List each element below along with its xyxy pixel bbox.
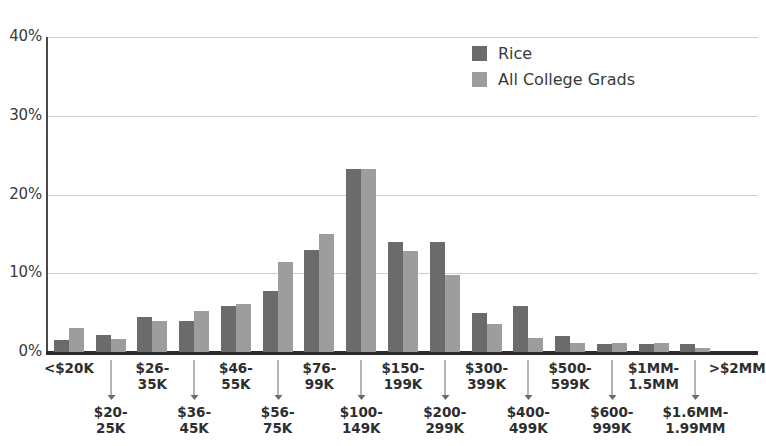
- x-axis-tick-label: $26-35K: [136, 360, 170, 392]
- bar-group: [340, 37, 382, 352]
- bar-group: [257, 37, 299, 352]
- bar: [680, 344, 695, 352]
- chart-legend: RiceAll College Grads: [472, 44, 635, 96]
- bar: [137, 317, 152, 352]
- bar: [194, 311, 209, 352]
- x-axis-category: $400-499K: [507, 358, 549, 446]
- bar: [278, 262, 293, 352]
- bar: [111, 339, 126, 352]
- x-axis-category: >$2MM: [716, 358, 758, 446]
- bar-chart: 40%30%20%10%0% RiceAll College Grads <$2…: [0, 0, 766, 446]
- bar: [96, 335, 111, 352]
- bar: [513, 306, 528, 352]
- x-axis-category: <$20K: [48, 358, 90, 446]
- x-axis-tick-label: $600-999K: [590, 404, 633, 436]
- x-axis-category: $46-55K: [215, 358, 257, 446]
- bar-group: [132, 37, 174, 352]
- x-axis-category: $76-99K: [299, 358, 341, 446]
- x-axis-category: $36-45K: [173, 358, 215, 446]
- x-axis-tick-label: $46-55K: [219, 360, 253, 392]
- bar: [346, 169, 361, 352]
- bar: [695, 348, 710, 352]
- bar: [472, 313, 487, 352]
- bar: [487, 324, 502, 352]
- legend-label: Rice: [498, 44, 532, 63]
- bar: [221, 306, 236, 352]
- x-axis-tick-label: $150-199K: [381, 360, 424, 392]
- x-axis-category: $150-199K: [382, 358, 424, 446]
- x-axis-category: $600-999K: [591, 358, 633, 446]
- down-arrow-icon: [528, 360, 529, 396]
- legend-swatch-icon: [472, 46, 487, 61]
- down-arrow-icon: [611, 360, 612, 396]
- bar: [570, 343, 585, 352]
- x-axis-tick-label: $1MM-1.5MM: [628, 360, 679, 392]
- bar-group: [716, 37, 758, 352]
- legend-item: Rice: [472, 44, 635, 63]
- x-axis-tick-label: $500-599K: [548, 360, 591, 392]
- x-axis-tick-label: $20-25K: [94, 404, 128, 436]
- bar-group: [215, 37, 257, 352]
- x-axis-tick-label: $56-75K: [261, 404, 295, 436]
- y-axis-tick-label: 10%: [0, 263, 42, 281]
- bar: [152, 321, 167, 353]
- bar: [69, 328, 84, 352]
- legend-label: All College Grads: [498, 70, 635, 89]
- x-axis-tick-label: $76-99K: [303, 360, 337, 392]
- x-axis-tick-label: $300-399K: [465, 360, 508, 392]
- x-axis-category: $26-35K: [132, 358, 174, 446]
- bar-group: [299, 37, 341, 352]
- bar-group: [674, 37, 716, 352]
- bar: [612, 343, 627, 352]
- bar: [528, 338, 543, 352]
- bar: [319, 234, 334, 352]
- bar: [639, 344, 654, 352]
- down-arrow-icon: [110, 360, 111, 396]
- x-axis-tick-label: $36-45K: [177, 404, 211, 436]
- x-axis-tick-label: $100-149K: [340, 404, 383, 436]
- legend-item: All College Grads: [472, 70, 635, 89]
- bar: [555, 336, 570, 352]
- bar: [54, 340, 69, 352]
- x-axis-category: $200-299K: [424, 358, 466, 446]
- bar: [403, 251, 418, 352]
- x-axis-category: $300-399K: [466, 358, 508, 446]
- y-axis-tick-labels: 40%30%20%10%0%: [0, 0, 42, 446]
- bar: [304, 250, 319, 352]
- x-axis-tick-label: $200-299K: [423, 404, 466, 436]
- down-arrow-icon: [194, 360, 195, 396]
- bar: [361, 169, 376, 352]
- bar: [654, 343, 669, 352]
- x-axis-category: $500-599K: [549, 358, 591, 446]
- bar-group: [173, 37, 215, 352]
- legend-swatch-icon: [472, 72, 487, 87]
- x-axis-category: $56-75K: [257, 358, 299, 446]
- bar: [430, 242, 445, 352]
- bar: [236, 304, 251, 352]
- y-axis-tick-label: 0%: [0, 342, 42, 360]
- y-axis-tick-label: 20%: [0, 185, 42, 203]
- bar: [388, 242, 403, 352]
- bar: [179, 321, 194, 352]
- bar: [445, 275, 460, 352]
- down-arrow-icon: [695, 360, 696, 396]
- bar-group: [633, 37, 675, 352]
- x-axis-tick-label: $400-499K: [507, 404, 550, 436]
- x-axis-category: $20-25K: [90, 358, 132, 446]
- down-arrow-icon: [444, 360, 445, 396]
- bar: [597, 344, 612, 352]
- bar: [263, 291, 278, 352]
- bars-layer: [48, 37, 758, 352]
- x-axis-category-labels: <$20K$20-25K$26-35K$36-45K$46-55K$56-75K…: [48, 358, 758, 446]
- bar-group: [382, 37, 424, 352]
- down-arrow-icon: [277, 360, 278, 396]
- y-axis-tick-label: 30%: [0, 106, 42, 124]
- y-axis-tick-label: 40%: [0, 27, 42, 45]
- x-axis-category: $100-149K: [340, 358, 382, 446]
- bar-group: [90, 37, 132, 352]
- bar-group: [48, 37, 90, 352]
- x-axis-tick-label: <$20K: [44, 360, 94, 376]
- down-arrow-icon: [361, 360, 362, 396]
- x-axis-tick-label: >$2MM: [709, 360, 766, 376]
- bar-group: [424, 37, 466, 352]
